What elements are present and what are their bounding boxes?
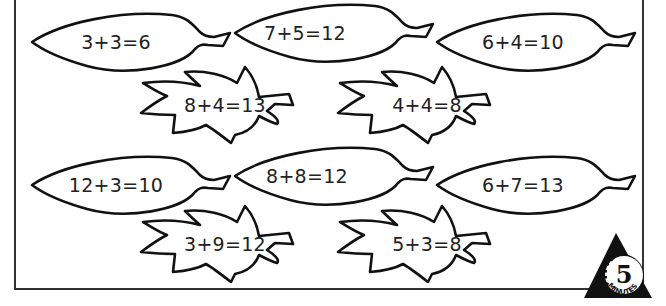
equation-text: 3+9=12: [184, 233, 266, 255]
leaf-8: 6+7=13: [437, 157, 635, 214]
equation-text: 3+3=6: [81, 31, 151, 53]
timer-badge: 5 MINUTES: [584, 233, 652, 298]
leaf-6: 12+3=10: [32, 157, 230, 214]
equation-text: 6+7=13: [482, 174, 564, 196]
leaf-7: 8+8=12: [235, 148, 433, 205]
leaf-5: 4+4=8: [338, 67, 490, 143]
leaf-1: 3+3=6: [32, 14, 230, 71]
timer-number: 5: [616, 260, 633, 289]
equation-text: 5+3=8: [392, 233, 462, 255]
leaf-4: 8+4=13: [141, 67, 293, 143]
equation-text: 7+5=12: [264, 22, 346, 44]
equation-text: 8+4=13: [184, 94, 266, 116]
equation-text: 6+4=10: [482, 31, 564, 53]
leaf-2: 7+5=12: [235, 5, 433, 62]
leaf-9: 3+9=12: [141, 206, 293, 282]
leaf-10: 5+3=8: [338, 206, 490, 282]
equation-text: 4+4=8: [392, 94, 462, 116]
equation-text: 8+8=12: [266, 165, 348, 187]
equation-text: 12+3=10: [69, 174, 163, 196]
worksheet-art: 3+3=6 7+5=12 6+4=10 8+4=13 4+4=8 12+3=10…: [0, 0, 666, 306]
leaf-3: 6+4=10: [437, 14, 635, 71]
